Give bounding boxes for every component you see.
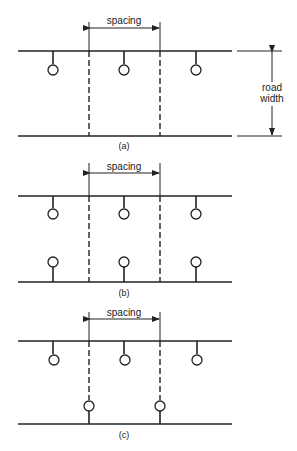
spacing-label: spacing bbox=[107, 161, 141, 172]
lamp-icon bbox=[49, 341, 59, 365]
lamp-icon bbox=[191, 196, 201, 219]
lamp-icon bbox=[48, 51, 58, 75]
lamp-icon bbox=[84, 401, 94, 424]
lamp-icon bbox=[155, 401, 165, 424]
lamp-icon bbox=[191, 257, 201, 282]
lamp-icon bbox=[192, 341, 202, 365]
panel-b bbox=[18, 163, 232, 282]
street-lighting-arrangement-diagram: spacing road width (a) spacing (b) spaci… bbox=[0, 0, 297, 451]
lamp-icon bbox=[191, 51, 201, 75]
lamp-icon bbox=[48, 257, 58, 282]
spacing-label: spacing bbox=[107, 15, 141, 26]
lamp-icon bbox=[48, 196, 58, 219]
panel-a bbox=[18, 22, 282, 136]
lamp-icon bbox=[119, 257, 129, 282]
lamp-icon bbox=[119, 51, 129, 75]
caption-c: (c) bbox=[119, 430, 130, 440]
panel-c bbox=[18, 312, 232, 424]
caption-a: (a) bbox=[119, 141, 130, 151]
lamp-icon bbox=[120, 341, 130, 365]
road-width-label: width bbox=[259, 93, 283, 104]
road-width-label: road bbox=[262, 82, 282, 93]
spacing-label: spacing bbox=[107, 307, 141, 318]
caption-b: (b) bbox=[119, 288, 130, 298]
lamp-icon bbox=[119, 196, 129, 219]
